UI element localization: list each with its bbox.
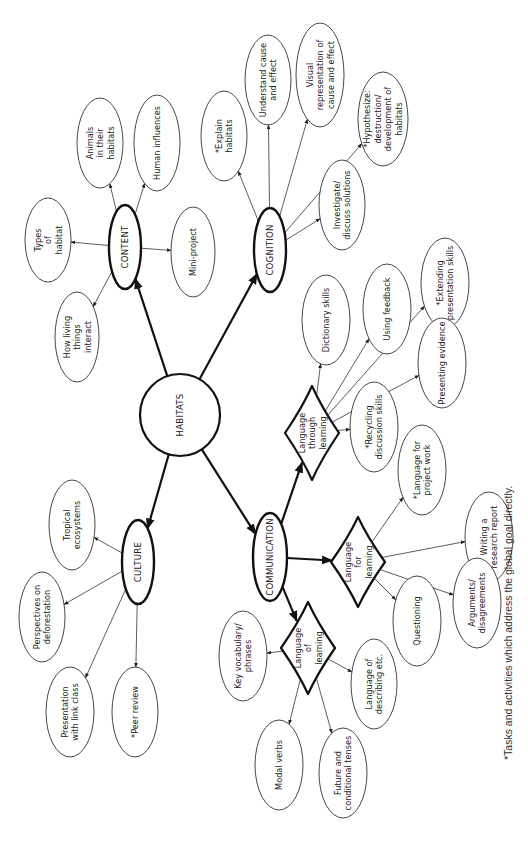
node-label: *Peer review [130, 686, 140, 738]
node-perspectives-deforestation: Perspectives ondeforestation [19, 572, 65, 662]
node-label-line: Tropical [62, 509, 72, 541]
node-peer-review: *Peer review [112, 667, 158, 757]
node-label-line: HABITATS [175, 394, 185, 437]
node-label: Modal verbs [274, 740, 284, 790]
node-human-influences: Human influences [134, 95, 180, 191]
connector-language-of-learning-to-future-conditional [317, 679, 332, 733]
node-label-line: How living [62, 316, 72, 359]
node-cognition: COGNITION [254, 208, 286, 292]
habitats-mind-map: HABITATSCONTENTTypesofhabitatAnimalsin t… [0, 0, 528, 851]
connector-communication-to-language-for-learning [287, 558, 332, 561]
node-understand-cause-effect: Understand causeand effect [245, 35, 291, 125]
node-label-line: of [303, 643, 313, 652]
node-label: COGNITION [265, 224, 275, 275]
node-label: *Language forproject work [412, 440, 433, 499]
node-label: CONTENT [120, 225, 130, 269]
node-label-line: habitats [106, 126, 116, 159]
node-types-of-habitat: Typesofhabitat [25, 198, 71, 282]
node-presentation-link-class: Presentationwith link class [46, 667, 94, 757]
node-label-line: in their [95, 128, 105, 158]
connector-language-for-learning-to-writing-research-report [382, 542, 465, 558]
node-label-line: habitats [224, 119, 234, 152]
node-dictionary-skills: Dictionary skills [302, 275, 350, 365]
node-label-line: Human influences [152, 106, 162, 180]
node-extending-presentation: *Extendingpresentation skills [421, 238, 469, 328]
node-label-line: learning [318, 416, 328, 449]
node-label-line: *Extending [435, 260, 445, 305]
node-label-line: *Language for [412, 440, 422, 499]
node-label: *Explainhabitats [214, 119, 235, 153]
node-label-line: Visual [305, 63, 315, 87]
connector-language-for-learning-to-questioning [375, 579, 396, 600]
node-label: Presentationwith link class [60, 683, 81, 740]
node-label-line: things [72, 324, 82, 349]
node-label-line: discuss solutions [342, 170, 352, 239]
node-label-line: presentation skills [445, 246, 455, 321]
node-label-line: Dictionary skills [321, 288, 331, 353]
connector-cognition-to-investigate-solutions [286, 219, 321, 241]
node-animals-in-habitats: Animalsin theirhabitats [77, 98, 123, 188]
node-label-line: and effect [268, 58, 278, 100]
node-label-line: Questioning [412, 596, 422, 645]
footnote: *Tasks and activities which address the … [502, 486, 514, 760]
node-label: HABITATS [175, 394, 185, 437]
node-label-line: interact [83, 320, 93, 353]
node-label-line: cause and effect [326, 40, 336, 109]
node-presenting-evidence: Presenting evidence [418, 318, 466, 408]
node-label-line: ecosystems [72, 501, 82, 549]
node-label-line: *Hypothesize: [362, 90, 372, 147]
node-label-line: learning [364, 545, 374, 578]
node-label-line: Arguments/ [467, 579, 477, 627]
node-using-feedback: Using feedback [363, 264, 411, 354]
node-label: Language ofdescribing etc. [364, 654, 385, 714]
node-label-line: Presentation [60, 686, 70, 737]
node-label-line: Mini-project [188, 227, 198, 276]
connector-culture-to-peer-review [136, 604, 137, 667]
connector-content-to-animals-in-habitats [110, 184, 117, 212]
node-label-line: Perspectives on [32, 585, 42, 649]
node-label-line: Animals [85, 127, 95, 160]
node-label-line: conditional tenses [343, 736, 353, 811]
node-visual-representation: Visualrepresentation ofcause and effect [296, 23, 344, 127]
connector-language-through-learning-to-dictionary-skills [317, 364, 321, 395]
node-communication: COMMUNICATION [253, 513, 287, 601]
node-label: Presenting evidence [437, 321, 447, 404]
node-habitats: HABITATS [140, 374, 220, 456]
node-label: COMMUNICATION [265, 518, 275, 596]
node-language-through-learning: Languagethroughlearning [285, 386, 339, 480]
node-label-line: through [307, 417, 317, 449]
node-language-for-learning: Languageforlearning [331, 517, 385, 607]
node-label-line: Understand cause [258, 43, 268, 117]
node-language-of-learning: Languageoflearning [281, 602, 335, 694]
node-label: Arguments/disagreements [467, 573, 488, 634]
node-label-line: destruction/ [373, 94, 383, 143]
connector-cognition-to-explain-habitats [238, 171, 258, 221]
node-hypothesize: *Hypothesize:destruction/development ofh… [358, 72, 408, 166]
node-label-line: CULTURE [133, 542, 143, 582]
node-modal-verbs: Modal verbs [255, 720, 303, 810]
connector-habitats-to-content [135, 279, 167, 376]
connector-content-to-human-influences [135, 183, 145, 214]
node-label-line: of [43, 235, 53, 244]
node-label-line: project work [422, 444, 432, 495]
node-investigate-solutions: Investigate/discuss solutions [319, 160, 365, 250]
node-key-vocabulary: Key vocabulary/phrases [219, 611, 267, 701]
node-label-line: Key vocabulary/ [233, 623, 243, 689]
node-label-line: Types [33, 228, 43, 252]
connector-content-to-mini-project [141, 248, 171, 250]
node-label: Languagethroughlearning [297, 413, 328, 453]
node-label-line: Language [343, 542, 353, 582]
node-mini-project: Mini-project [171, 207, 215, 297]
connector-communication-to-language-through-learning [281, 463, 302, 524]
node-label-line: COGNITION [265, 224, 275, 275]
connector-habitats-to-culture [148, 454, 169, 528]
connector-cognition-to-visual-representation [280, 119, 308, 216]
mind-map-nodes: HABITATSCONTENTTypesofhabitatAnimalsin t… [19, 23, 513, 818]
node-label: CULTURE [133, 542, 143, 582]
node-label-line: COMMUNICATION [265, 518, 275, 596]
node-label-line: CONTENT [120, 225, 130, 269]
node-label-line: Investigate/ [332, 181, 342, 230]
node-label-line: development of [383, 86, 393, 152]
node-label: Perspectives ondeforestation [32, 585, 53, 649]
node-label-line: Language [297, 413, 307, 453]
